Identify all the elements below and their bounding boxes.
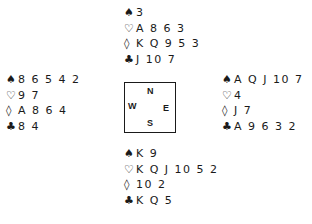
west-spades: ♠8 6 5 4 2	[6, 72, 80, 88]
north-clubs: ♣J 10 7	[124, 52, 200, 68]
spade-icon: ♠	[222, 72, 234, 88]
west-spades-cards: 8 6 5 4 2	[18, 73, 80, 86]
south-hearts-cards: K Q J 10 5 2	[136, 163, 219, 176]
heart-icon: ♡	[6, 88, 18, 104]
north-clubs-cards: J 10 7	[136, 53, 176, 66]
diamond-icon: ◊	[124, 36, 136, 52]
club-icon: ♣	[124, 52, 136, 68]
diamond-icon: ◊	[222, 103, 234, 119]
club-icon: ♣	[6, 119, 18, 135]
north-hearts: ♡A 8 6 3	[124, 21, 200, 37]
north-spades: ♠3	[124, 5, 200, 21]
east-clubs: ♣A 9 6 3 2	[222, 119, 303, 135]
east-diamonds: ◊J 7	[222, 103, 303, 119]
west-hearts: ♡9 7	[6, 88, 80, 104]
east-spades-cards: A Q J 10 7	[234, 73, 303, 86]
east-hearts-cards: 4	[234, 89, 243, 102]
west-hand: ♠8 6 5 4 2 ♡9 7 ◊A 8 6 4 ♣8 4	[6, 72, 80, 134]
west-hearts-cards: 9 7	[18, 89, 40, 102]
compass-east: E	[163, 103, 169, 113]
south-clubs: ♣K Q 5	[124, 193, 219, 209]
diamond-icon: ◊	[124, 177, 136, 193]
compass-west: W	[128, 101, 137, 111]
north-diamonds-cards: K Q 9 5 3	[136, 37, 200, 50]
spade-icon: ♠	[6, 72, 18, 88]
west-clubs-cards: 8 4	[18, 120, 40, 133]
north-diamonds: ◊K Q 9 5 3	[124, 36, 200, 52]
north-hearts-cards: A 8 6 3	[136, 22, 186, 35]
south-hearts: ♡K Q J 10 5 2	[124, 162, 219, 178]
spade-icon: ♠	[124, 146, 136, 162]
compass-north: N	[147, 86, 154, 96]
south-spades-cards: K 9	[136, 147, 158, 160]
south-diamonds: ◊10 2	[124, 177, 219, 193]
diamond-icon: ◊	[6, 103, 18, 119]
east-clubs-cards: A 9 6 3 2	[234, 120, 297, 133]
west-clubs: ♣8 4	[6, 119, 80, 135]
east-hearts: ♡4	[222, 88, 303, 104]
south-clubs-cards: K Q 5	[136, 194, 173, 207]
club-icon: ♣	[222, 119, 234, 135]
south-diamonds-cards: 10 2	[136, 178, 167, 191]
west-diamonds-cards: A 8 6 4	[18, 104, 68, 117]
north-spades-cards: 3	[136, 6, 145, 19]
south-hand: ♠K 9 ♡K Q J 10 5 2 ◊10 2 ♣K Q 5	[124, 146, 219, 208]
compass-box: N W E S	[124, 82, 176, 133]
west-diamonds: ◊A 8 6 4	[6, 103, 80, 119]
east-spades: ♠A Q J 10 7	[222, 72, 303, 88]
spade-icon: ♠	[124, 5, 136, 21]
east-diamonds-cards: J 7	[234, 104, 252, 117]
club-icon: ♣	[124, 193, 136, 209]
east-hand: ♠A Q J 10 7 ♡4 ◊J 7 ♣A 9 6 3 2	[222, 72, 303, 134]
north-hand: ♠3 ♡A 8 6 3 ◊K Q 9 5 3 ♣J 10 7	[124, 5, 200, 67]
compass-south: S	[147, 118, 153, 128]
heart-icon: ♡	[124, 162, 136, 178]
heart-icon: ♡	[222, 88, 234, 104]
south-spades: ♠K 9	[124, 146, 219, 162]
heart-icon: ♡	[124, 21, 136, 37]
